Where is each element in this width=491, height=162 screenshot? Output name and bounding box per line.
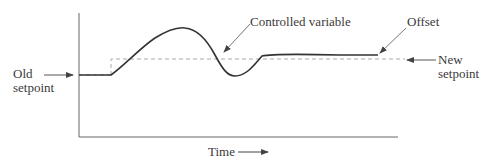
old-setpoint-label-line2: setpoint	[13, 81, 54, 95]
old-setpoint-label-line1: Old	[13, 67, 54, 81]
offset-arrow	[380, 28, 406, 53]
controlled-variable-curve	[79, 28, 378, 76]
controlled-variable-arrow	[224, 24, 250, 52]
controlled-variable-label: Controlled variable	[250, 15, 351, 29]
offset-label: Offset	[407, 15, 439, 29]
new-setpoint-label-line1: New	[438, 53, 479, 67]
new-setpoint-label-line2: setpoint	[438, 67, 479, 81]
diagram-canvas: Old setpoint Controlled variable Offset …	[0, 0, 491, 162]
new-setpoint-label: New setpoint	[438, 53, 479, 81]
old-setpoint-label: Old setpoint	[13, 67, 54, 95]
time-axis-label: Time	[208, 145, 235, 159]
